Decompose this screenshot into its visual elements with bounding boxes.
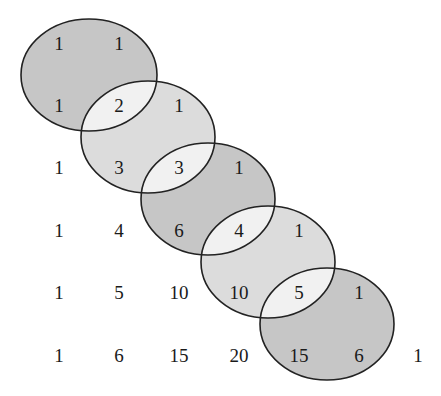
pascal-number-r0-c1: 1	[114, 33, 124, 54]
pascal-number-r1-c1: 2	[114, 95, 124, 116]
pascal-number-r4-c3: 10	[230, 282, 249, 303]
pascal-number-r2-c0: 1	[54, 157, 64, 178]
pascal-number-r3-c1: 4	[114, 220, 124, 241]
pascal-number-r3-c0: 1	[54, 220, 64, 241]
pascal-number-r4-c5: 1	[354, 282, 364, 303]
pascal-number-r5-c1: 6	[114, 345, 124, 366]
pascal-number-r4-c2: 10	[170, 282, 189, 303]
pascal-number-r3-c3: 4	[234, 220, 244, 241]
pascal-number-r5-c5: 6	[354, 345, 364, 366]
pascal-number-r2-c1: 3	[114, 157, 124, 178]
diagram-canvas: 11121133114641151010511615201561	[0, 0, 441, 396]
pascal-number-r5-c6: 1	[413, 345, 423, 366]
pascal-number-r2-c3: 1	[234, 157, 244, 178]
pascal-number-r4-c0: 1	[54, 282, 64, 303]
pascal-number-r5-c4: 15	[290, 345, 309, 366]
pascal-number-r5-c3: 20	[230, 345, 249, 366]
pascal-number-r3-c2: 6	[174, 220, 184, 241]
pascal-number-r4-c4: 5	[294, 282, 304, 303]
pascal-triangle-diagram: 11121133114641151010511615201561	[0, 0, 441, 396]
pascal-number-r4-c1: 5	[114, 282, 124, 303]
pascal-number-r1-c0: 1	[54, 95, 64, 116]
pascal-number-r3-c4: 1	[294, 220, 304, 241]
pascal-number-r0-c0: 1	[54, 33, 64, 54]
pascal-number-r5-c2: 15	[170, 345, 189, 366]
pascal-number-r5-c0: 1	[54, 345, 64, 366]
pascal-number-r2-c2: 3	[174, 157, 184, 178]
ellipse-fills	[21, 19, 394, 380]
pascal-number-r1-c2: 1	[174, 95, 184, 116]
